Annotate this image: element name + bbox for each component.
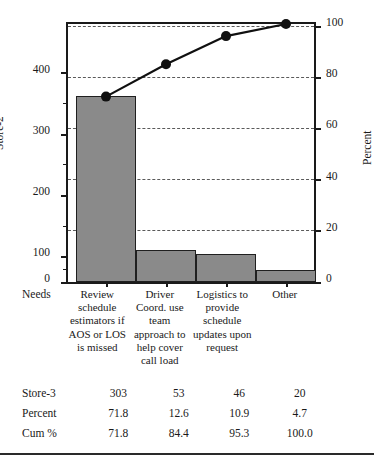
table-row: Cum % 71.8 84.4 95.3 100.0 <box>22 424 330 444</box>
y-axis-title-left: Store-2 <box>0 116 5 150</box>
category-label-4: Other <box>254 288 317 367</box>
row-header-cum-percent: Cum % <box>22 424 88 444</box>
cell-cum-3: 95.3 <box>209 424 270 444</box>
plot-area <box>66 22 316 284</box>
page-divider-rule <box>0 453 374 455</box>
ticklabel-right-80: 80 <box>326 68 366 80</box>
ticklabel-right-20: 20 <box>326 222 366 234</box>
tick-left-200 <box>61 195 68 197</box>
cell-cum-1: 71.8 <box>88 424 149 444</box>
category-label-3: Logistics to provide schedule updates up… <box>191 288 254 367</box>
ticklabel-left-100: 100 <box>10 247 50 259</box>
tick-right-40 <box>314 179 321 181</box>
ticklabel-left-200: 200 <box>10 186 50 198</box>
row-header-store3: Store-3 <box>22 384 88 404</box>
pareto-data-table: Store-3 303 53 46 20 Percent 71.8 12.6 1… <box>22 384 352 444</box>
cell-percent-3: 10.9 <box>209 404 270 424</box>
tick-left-400 <box>61 72 68 74</box>
ticklabel-left-400: 400 <box>10 64 50 76</box>
ticklabel-left-0: 0 <box>10 273 50 285</box>
category-label-1: Review schedule estimators if AOS or LOS… <box>66 288 129 367</box>
cat-tick-2 <box>166 282 168 287</box>
cat-tick-1 <box>106 282 108 287</box>
table-row: Percent 71.8 12.6 10.9 4.7 <box>22 404 330 424</box>
tick-right-100 <box>314 26 321 28</box>
cell-percent-4: 4.7 <box>270 404 331 424</box>
tick-left-100 <box>61 256 68 258</box>
category-label-2: Driver Coord. use team approach to help … <box>129 288 192 367</box>
cell-store3-4: 20 <box>270 384 331 404</box>
y-axis-title-right: Percent <box>361 131 373 165</box>
tick-right-20 <box>314 230 321 232</box>
cat-tick-4 <box>286 282 288 287</box>
cell-store3-1: 303 <box>88 384 149 404</box>
tick-left-300 <box>61 134 68 136</box>
cell-cum-2: 84.4 <box>149 424 210 444</box>
tick-right-80 <box>314 77 321 79</box>
tick-right-0 <box>314 282 321 284</box>
cat-tick-3 <box>226 282 228 287</box>
cell-percent-2: 12.6 <box>149 404 210 424</box>
pareto-chart-figure: 400 300 200 100 0 100 80 60 40 20 0 Stor… <box>0 0 374 463</box>
table-row: Store-3 303 53 46 20 <box>22 384 330 404</box>
cell-percent-1: 71.8 <box>88 404 149 424</box>
x-axis-title: Needs <box>22 288 51 300</box>
ticklabel-right-100: 100 <box>326 17 366 29</box>
cell-store3-2: 53 <box>149 384 210 404</box>
ticklabel-right-40: 40 <box>326 171 366 183</box>
ticklabel-right-60: 60 <box>326 119 366 131</box>
ticklabel-left-300: 300 <box>10 125 50 137</box>
category-label-row: Review schedule estimators if AOS or LOS… <box>66 288 316 367</box>
tick-left-0 <box>61 282 68 284</box>
cumulative-percent-line <box>68 24 314 282</box>
cell-store3-3: 46 <box>209 384 270 404</box>
cell-cum-4: 100.0 <box>270 424 331 444</box>
tick-right-60 <box>314 128 321 130</box>
row-header-percent: Percent <box>22 404 88 424</box>
ticklabel-right-0: 0 <box>326 273 366 285</box>
